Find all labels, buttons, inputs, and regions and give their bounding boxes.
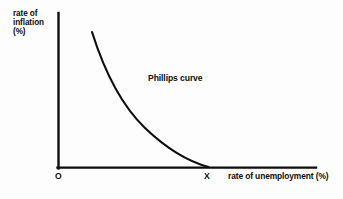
y-axis-label: rate of inflation (%) [13, 9, 44, 37]
plot-area [0, 0, 343, 199]
x-intercept-label: X [204, 172, 210, 182]
phillips-curve-figure: rate of inflation (%) Phillips curve O X… [0, 0, 343, 199]
x-axis-label: rate of unemployment (%) [228, 172, 328, 181]
origin-label: O [55, 172, 62, 182]
phillips-curve-label: Phillips curve [148, 74, 202, 84]
phillips-curve-path [92, 32, 209, 167]
